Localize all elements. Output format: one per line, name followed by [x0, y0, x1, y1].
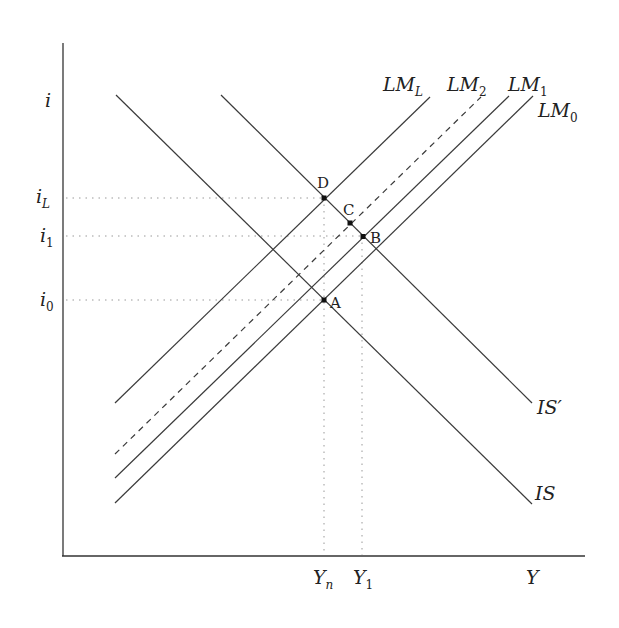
point-A-label: A — [329, 294, 341, 312]
lm-l-label: LML — [382, 73, 423, 99]
i0-label: i0 — [40, 288, 54, 314]
is-label: IS — [534, 482, 556, 504]
lm-0-label: LM0 — [537, 99, 578, 125]
is-prime-label: IS′ — [536, 396, 563, 418]
point-C-label: C — [343, 201, 354, 219]
x-axis-label: Y — [526, 566, 541, 588]
point-D-label: D — [317, 174, 329, 192]
point-B — [361, 234, 366, 239]
point-A — [322, 298, 327, 303]
lm-1-curve — [115, 96, 509, 478]
Y1-label: Y1 — [353, 566, 373, 592]
point-D — [322, 196, 327, 201]
Yn-label: Yn — [313, 566, 333, 592]
iL-label: iL — [36, 185, 50, 211]
i1-label: i1 — [40, 224, 54, 250]
is-lm-diagram: A B C D i iL i1 i0 Yn Y1 Y IS′ IS LML LM… — [0, 0, 619, 628]
point-C — [348, 221, 353, 226]
lm-1-label: LM1 — [507, 73, 548, 99]
y-axis-label: i — [45, 89, 51, 111]
point-B-label: B — [370, 229, 381, 247]
lm-2-label: LM2 — [446, 73, 487, 99]
